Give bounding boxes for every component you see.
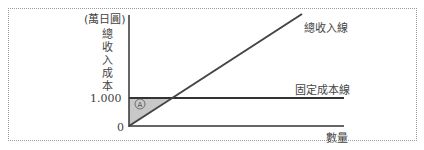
revenue-line-label: 總收入線 [304,19,348,35]
y-tick-1000: 1.000 [90,92,122,105]
y-tick-0: 0 [117,121,124,134]
x-axis-label: 數量 [326,129,348,145]
fixed-cost-line-label: 固定成本線 [295,81,350,97]
total-revenue-line [129,14,302,126]
y-unit-label: (萬日圓) [84,10,126,26]
y-axis-label: 總收入成本 [100,28,114,93]
area-a-marker-letter: A [138,101,143,109]
chart-plot: A [0,0,424,150]
